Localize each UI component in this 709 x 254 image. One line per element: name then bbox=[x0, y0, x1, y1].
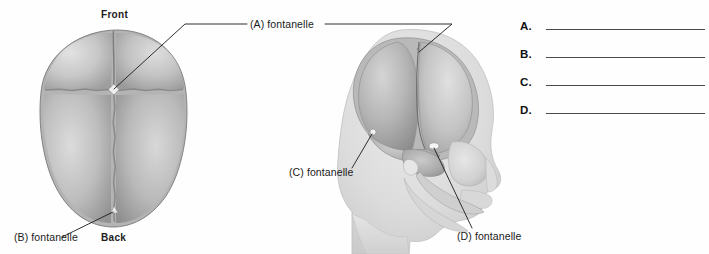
frontal-bone-right bbox=[116, 33, 184, 90]
parietal-bone-right bbox=[116, 94, 185, 223]
callout-label-c: (C) fontanelle bbox=[289, 167, 353, 178]
answer-row-c[interactable]: C. bbox=[520, 72, 705, 92]
answer-letter-b: B. bbox=[520, 48, 546, 60]
figure-canvas: Front Back (A) fontanelle (B) fontanelle… bbox=[0, 0, 709, 254]
answer-blank-c[interactable] bbox=[546, 85, 705, 86]
mastoid-fontanelle-marker bbox=[370, 129, 376, 135]
answer-letter-a: A. bbox=[520, 20, 546, 32]
lateral-skull-view bbox=[325, 24, 501, 254]
answer-blank-b[interactable] bbox=[546, 57, 705, 58]
answer-row-b[interactable]: B. bbox=[520, 44, 705, 64]
orientation-label-back: Back bbox=[101, 233, 126, 243]
answer-row-d[interactable]: D. bbox=[520, 100, 705, 120]
answer-blank-a[interactable] bbox=[546, 29, 705, 30]
metopic-suture bbox=[113, 31, 114, 86]
callout-label-a: (A) fontanelle bbox=[250, 19, 314, 30]
parietal-bone-left bbox=[43, 94, 111, 223]
orientation-label-front: Front bbox=[101, 10, 128, 20]
callout-label-d: (D) fontanelle bbox=[457, 231, 521, 242]
answer-key: A. B. C. D. bbox=[520, 8, 705, 123]
answer-letter-c: C. bbox=[520, 76, 546, 88]
answer-blank-d[interactable] bbox=[546, 113, 705, 114]
callout-label-b: (B) fontanelle bbox=[14, 232, 78, 243]
answer-row-a[interactable]: A. bbox=[520, 16, 705, 36]
answer-letter-d: D. bbox=[520, 104, 546, 116]
frontal-bone-left bbox=[44, 33, 113, 90]
superior-skull-view bbox=[40, 24, 247, 237]
